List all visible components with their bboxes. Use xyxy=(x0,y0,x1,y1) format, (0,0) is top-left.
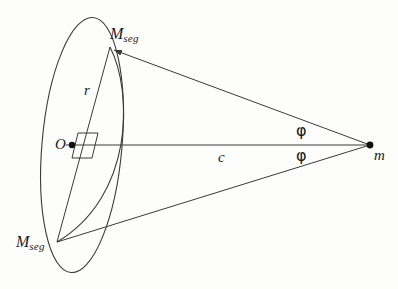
point-o-dot xyxy=(69,142,75,148)
ray-top-to-m xyxy=(114,50,370,145)
label-m-seg-bottom: Mseg xyxy=(16,234,45,252)
label-angle-phi-top: φ xyxy=(296,123,307,139)
label-radius-r: r xyxy=(84,83,90,98)
label-m-seg-bottom-subscript: seg xyxy=(29,240,44,252)
label-center-o: O xyxy=(55,137,66,152)
label-angle-phi-bottom: φ xyxy=(296,148,307,164)
label-m-seg-bottom-symbol: M xyxy=(16,233,29,250)
label-m-seg-top: Mseg xyxy=(110,26,139,44)
label-point-m: m xyxy=(374,148,385,163)
label-m-seg-top-subscript: seg xyxy=(123,32,138,44)
geometry-diagram: Mseg Mseg r O c m φ φ xyxy=(0,0,398,289)
point-m-dot xyxy=(367,142,374,149)
label-axis-c: c xyxy=(218,150,225,165)
label-m-seg-top-symbol: M xyxy=(110,25,123,42)
